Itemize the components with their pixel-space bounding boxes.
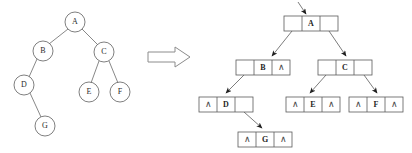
null-pointer-glyph: ∧	[391, 99, 398, 109]
binary-tree-diagram: A B C D E F	[14, 12, 130, 136]
tree-node-label: B	[40, 46, 45, 55]
implies-arrow-icon	[148, 47, 190, 67]
tree-node-a: A	[65, 12, 85, 32]
linked-pointer-lines	[226, 31, 377, 128]
link-b-left-to-d	[226, 75, 244, 93]
tree-edge-c-f	[109, 61, 118, 83]
linked-node-g: ∧ G ∧	[238, 132, 292, 147]
figure-svg: A B C D E F	[0, 0, 412, 153]
null-pointer-glyph: ∧	[280, 134, 287, 144]
linked-node-label: F	[374, 100, 379, 109]
tree-node-g: G	[35, 116, 55, 136]
tree-node-d: D	[14, 75, 34, 95]
linked-node-label: B	[260, 63, 266, 72]
tree-edge-a-c	[82, 29, 98, 45]
linked-node-f: ∧ F ∧	[349, 97, 403, 112]
link-c-right-to-f	[364, 75, 377, 93]
tree-node-label: C	[101, 47, 106, 56]
tree-node-label: F	[118, 87, 123, 96]
linked-node-c: C	[318, 60, 372, 75]
link-c-left-to-e	[310, 75, 326, 93]
linked-node-d: ∧ D	[199, 97, 253, 112]
linked-node-a: A	[284, 16, 338, 31]
link-a-left-to-b	[272, 31, 292, 56]
tree-edge-a-b	[49, 29, 68, 44]
tree-edge-c-e	[91, 61, 99, 83]
tree-node-label: E	[87, 87, 92, 96]
tree-node-b: B	[33, 41, 53, 61]
null-pointer-glyph: ∧	[292, 99, 299, 109]
tree-node-label: D	[21, 80, 27, 89]
linked-node-label: E	[310, 100, 315, 109]
tree-edge-d-g	[30, 93, 41, 117]
tree-node-label: A	[72, 17, 78, 26]
linked-node-label: D	[223, 100, 229, 109]
null-pointer-glyph: ∧	[355, 99, 362, 109]
null-pointer-glyph: ∧	[328, 99, 335, 109]
linked-node-b: B ∧	[236, 60, 290, 75]
null-pointer-glyph: ∧	[244, 134, 251, 144]
link-a-right-to-c	[329, 31, 346, 56]
tree-node-label: G	[42, 121, 48, 130]
tree-node-e: E	[79, 82, 99, 102]
link-d-right-to-g	[244, 112, 262, 128]
linked-node-label: C	[342, 63, 348, 72]
null-pointer-glyph: ∧	[205, 99, 212, 109]
linked-node-e: ∧ E ∧	[286, 97, 340, 112]
tree-node-c: C	[94, 42, 114, 62]
tree-node-f: F	[110, 82, 130, 102]
figure-canvas: A B C D E F	[0, 0, 412, 153]
linked-representation-diagram: A B ∧ C ∧ D	[199, 2, 403, 147]
linked-node-label: A	[308, 19, 314, 28]
tree-edge-b-d	[29, 59, 37, 77]
root-pointer-line	[298, 2, 306, 14]
linked-node-label: G	[262, 135, 268, 144]
null-pointer-glyph: ∧	[278, 62, 285, 72]
